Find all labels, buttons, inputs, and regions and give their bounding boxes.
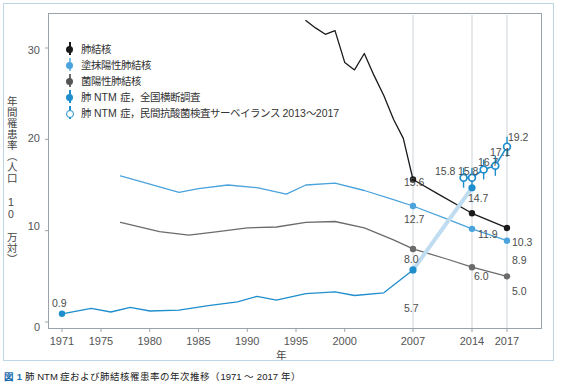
data-point-label: 12.7 (404, 213, 424, 225)
data-point-label: 19.2 (508, 131, 528, 143)
data-point-label: 0.9 (52, 297, 67, 309)
gray-dot-marker-icon (62, 73, 78, 88)
legend-item-tuberculosis[interactable]: 肺結核 (62, 41, 339, 56)
svg-text:1975: 1975 (89, 335, 113, 347)
y-tick-label: 0 (16, 321, 40, 333)
y-tick-label: 30 (16, 44, 40, 56)
svg-text:2007: 2007 (401, 335, 425, 347)
svg-text:1985: 1985 (186, 335, 210, 347)
y-tick-marks (45, 48, 49, 322)
svg-text:2000: 2000 (333, 335, 357, 347)
data-point-label: 14.7 (468, 192, 488, 204)
figure-caption-text: 肺 NTM 症および肺結核罹患率の年次推移（1971 ～ 2017 年） (25, 371, 301, 382)
light-blue-dot-marker-icon (62, 57, 78, 72)
legend-item-ntm-national-survey[interactable]: 肺 NTM 症，全国横断調査 (62, 89, 339, 104)
data-point-label: 15.8 (458, 165, 478, 177)
legend-item-smear-positive[interactable]: 塗抹陽性肺結核 (62, 57, 339, 72)
legend-label: 塗抹陽性肺結核 (81, 57, 151, 72)
svg-text:2017: 2017 (495, 335, 519, 347)
y-tick-label: 10 (16, 220, 40, 232)
data-point-label: 8.0 (404, 253, 419, 265)
blue-dot-marker-icon (62, 89, 78, 104)
svg-text:1990: 1990 (235, 335, 259, 347)
svg-text:1971: 1971 (50, 335, 74, 347)
data-point-label: 5.0 (512, 285, 527, 297)
blue-open-circle-marker-icon (62, 105, 78, 120)
data-point-label: 11.9 (478, 228, 498, 240)
data-point-label: 10.3 (512, 236, 532, 248)
svg-text:1995: 1995 (284, 335, 308, 347)
legend-label: 菌陽性肺結核 (81, 73, 141, 88)
black-dot-marker-icon (62, 41, 78, 56)
figure-caption: 図 1 肺 NTM 症および肺結核罹患率の年次推移（1971 ～ 2017 年） (4, 369, 557, 383)
figure-container: 年間罹患率（人口 10 万対） 年 1971197519801985199019… (0, 0, 561, 384)
data-point-label: 8.9 (512, 254, 527, 266)
legend-label: 肺結核 (81, 41, 111, 56)
data-point-label: 17.1 (490, 146, 510, 158)
legend-item-ntm-surveillance[interactable]: 肺 NTM 症，民間抗酸菌検査サーベイランス 2013〜2017 (62, 105, 339, 120)
x-tick-marks: 1971197519801985199019952000200720142017 (50, 328, 519, 347)
legend-label: 肺 NTM 症，全国横断調査 (81, 89, 200, 104)
legend-item-culture-positive[interactable]: 菌陽性肺結核 (62, 73, 339, 88)
legend: 肺結核 塗抹陽性肺結核 菌陽性肺結核 肺 NTM 症，全国横断調査 (62, 41, 339, 121)
data-point-label: 6.0 (474, 270, 489, 282)
svg-text:1980: 1980 (138, 335, 162, 347)
figure-number: 図 1 (4, 369, 22, 383)
data-point-label: 15.6 (404, 176, 424, 188)
svg-text:2014: 2014 (460, 335, 484, 347)
legend-label: 肺 NTM 症，民間抗酸菌検査サーベイランス 2013〜2017 (81, 105, 339, 120)
data-point-label: 15.8 (435, 165, 455, 177)
data-point-label: 5.7 (404, 302, 419, 314)
y-tick-label: 20 (16, 132, 40, 144)
